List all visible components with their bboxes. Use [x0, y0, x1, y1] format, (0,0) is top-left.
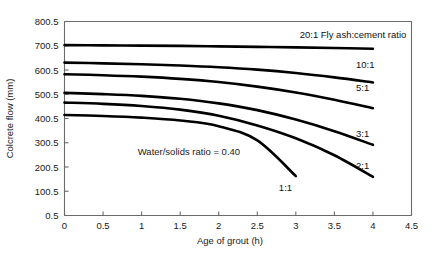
colcrete-flow-line-chart: 00.511.522.533.544.5 0.5100.5200.5300.54…	[0, 0, 440, 266]
y-tick-label: 400.5	[35, 113, 59, 124]
chart-figure: 00.511.522.533.544.5 0.5100.5200.5300.54…	[0, 0, 440, 266]
series-label-2-1: 2:1	[356, 160, 369, 171]
y-tick-label: 600.5	[35, 65, 59, 76]
curve-20-1	[65, 45, 373, 49]
x-tick-label: 2.5	[251, 220, 264, 231]
plot-frame	[65, 22, 412, 216]
y-tick-label: 0.5	[45, 210, 58, 221]
x-tick-label: 3.5	[328, 220, 341, 231]
x-axis-ticks: 00.511.522.533.544.5	[62, 212, 418, 231]
data-curves	[65, 45, 373, 177]
curve-10-1	[65, 63, 373, 83]
chart-annotations: Water/solids ratio = 0.40	[138, 146, 240, 157]
y-axis-title: Colcrete flow (mm)	[4, 79, 15, 159]
x-tick-label: 0.5	[96, 220, 109, 231]
x-tick-label: 1.5	[174, 220, 187, 231]
x-axis-title: Age of grout (h)	[197, 235, 263, 246]
series-label-3-1: 3:1	[356, 128, 369, 139]
curve-2-1	[65, 103, 373, 177]
curve-3-1	[65, 93, 373, 145]
x-tick-label: 0	[62, 220, 67, 231]
y-tick-label: 100.5	[35, 186, 59, 197]
series-labels: 20:1 Fly ash:cement ratio10:15:13:12:11:…	[279, 29, 406, 192]
series-label-5-1: 5:1	[356, 82, 369, 93]
y-tick-label: 200.5	[35, 162, 59, 173]
plot-border	[65, 22, 412, 216]
x-tick-label: 4.5	[405, 220, 418, 231]
x-tick-label: 1	[139, 220, 144, 231]
x-tick-label: 2	[216, 220, 221, 231]
y-axis-ticks: 0.5100.5200.5300.5400.5500.5600.5700.580…	[35, 16, 69, 221]
y-tick-label: 700.5	[35, 40, 59, 51]
x-tick-label: 4	[370, 220, 375, 231]
water-solids-annotation: Water/solids ratio = 0.40	[138, 146, 240, 157]
y-tick-label: 800.5	[35, 16, 59, 27]
series-label-10-1: 10:1	[356, 59, 375, 70]
y-tick-label: 300.5	[35, 137, 59, 148]
y-tick-label: 500.5	[35, 89, 59, 100]
x-tick-label: 3	[293, 220, 298, 231]
series-label-1-1: 1:1	[279, 182, 292, 193]
axis-lines	[65, 22, 412, 216]
series-label-20-1: 20:1 Fly ash:cement ratio	[300, 29, 407, 40]
